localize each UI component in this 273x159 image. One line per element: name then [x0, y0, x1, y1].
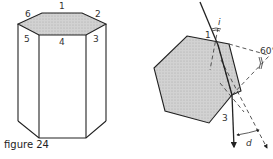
figure-caption: figure 24	[4, 139, 49, 150]
face-label-3: 3	[222, 113, 228, 123]
deviation-angle-label: d	[246, 138, 252, 148]
prism-top-face	[18, 13, 106, 35]
face-label-1: 1	[205, 30, 211, 40]
vertex-label-2: 2	[95, 9, 101, 19]
figure-24-diagram: 1 2 3 4 5 6 1 3 i	[0, 0, 273, 159]
hexagonal-prism	[18, 13, 106, 138]
vertex-label-6: 6	[25, 9, 31, 19]
vertex-label-4: 4	[59, 37, 65, 47]
vertex-label-3: 3	[93, 34, 99, 44]
incidence-angle-arc	[211, 28, 221, 29]
deviation-arrow	[237, 130, 259, 135]
apex-angle-label: 60°	[260, 46, 273, 56]
vertex-label-1: 1	[59, 1, 65, 11]
vertex-label-5: 5	[24, 34, 30, 44]
incidence-angle-label: i	[218, 17, 221, 27]
apex-angle-arc	[259, 57, 261, 69]
